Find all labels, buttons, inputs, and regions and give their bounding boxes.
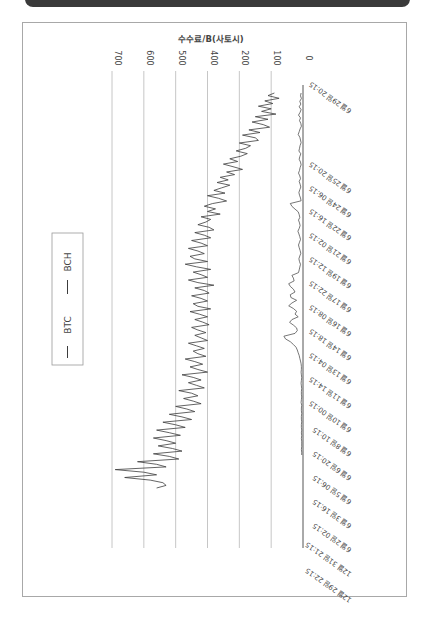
series-bch-line <box>284 93 302 455</box>
y-tick-label: 600 <box>145 50 154 65</box>
y-tick-label: 0 <box>304 55 313 60</box>
series-lines <box>115 93 302 488</box>
y-tick-label: 700 <box>113 50 122 65</box>
series-btc-line <box>115 93 279 488</box>
y-tick-label: 200 <box>240 50 249 65</box>
x-axis-tick-labels: 6월 29일 20:156월 25일 20:156월 24일 06:156월 2… <box>303 80 353 605</box>
legend-bch-label: BCH <box>63 252 73 271</box>
y-tick-label: 500 <box>177 50 186 65</box>
legend: BTC BCH <box>52 233 83 365</box>
y-axis-tick-labels: 0100200400500600700 <box>113 50 313 65</box>
legend-btc-label: BTC <box>63 316 73 333</box>
chart-title: 수수료/B(사토시) <box>178 34 243 44</box>
y-tick-label: 400 <box>209 50 218 65</box>
fee-line-chart: 수수료/B(사토시) 0100200400500600700 6월 29일 20… <box>0 0 430 627</box>
y-tick-label: 100 <box>272 50 281 65</box>
x-tick-label: 6월 29일 20:15 <box>307 80 353 116</box>
